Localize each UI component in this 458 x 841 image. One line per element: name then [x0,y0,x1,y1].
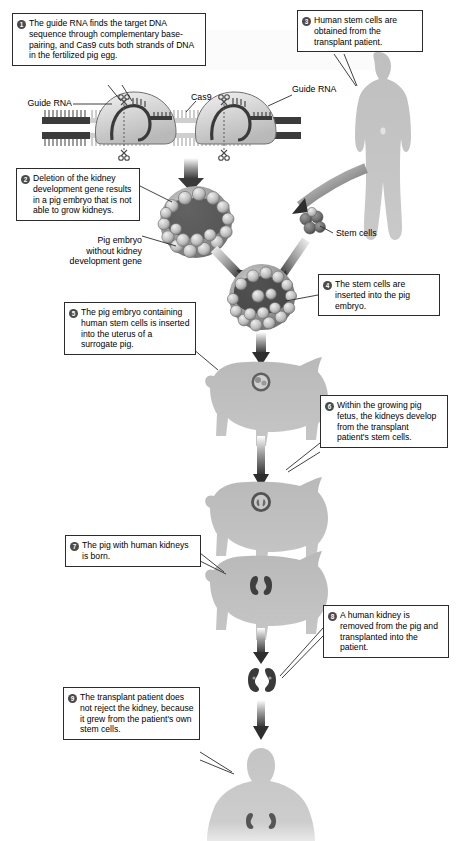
label-cas9: Cas9 [191,92,212,103]
pig-embryo-edited [158,186,234,258]
callout-step-4[interactable]: 4The stem cells are inserted into the pi… [318,274,440,316]
callout-step-7[interactable]: 7The pig with human kidneys is born. [65,535,201,567]
step-text-4: The stem cells are inserted into the pig… [335,279,410,311]
callout-step-1[interactable]: 1The guide RNA finds the target DNA sequ… [12,13,206,66]
step-text-1: The guide RNA finds the target DNA seque… [29,18,194,60]
pig-embryo-caption-line-2: without kidney [86,246,142,256]
step-badge-7: 7 [70,542,79,551]
label-guide-rna-left: Guide RNA [10,98,72,109]
arrow-pig-to-fetus-pig [253,436,269,488]
cas9-protein-left [95,92,176,144]
callout-step-6[interactable]: 6Within the growing pig fetus, the kidne… [320,395,448,448]
step-badge-5: 5 [69,309,78,318]
callout-step-3[interactable]: 3Human stem cells are obtained from the … [297,10,423,52]
step-text-9: The transplant patient does not reject t… [80,692,194,734]
step-text-5: The pig embryo containing human stem cel… [81,307,189,349]
surrogate-pig [205,357,328,446]
harvested-kidney [248,668,276,692]
callout-step-8[interactable]: 8A human kidney is removed from the pig … [323,605,449,658]
step-badge-3: 3 [302,17,311,26]
newborn-pig [205,551,328,640]
scissors-icon-bottom-right [219,150,230,160]
callout-step-9[interactable]: 9The transplant patient does not reject … [63,687,200,740]
dna-cas9-complex [42,92,301,160]
step-text-3: Human stem cells are obtained from the t… [314,15,397,47]
step-badge-4: 4 [323,281,332,290]
callout-step-2[interactable]: 2Deletion of the kidney development gene… [16,168,140,221]
step-text-8: A human kidney is removed from the pig a… [340,610,438,652]
arrow-patient-to-stem-cells [292,168,366,214]
step-badge-2: 2 [21,175,30,184]
pig-embryo-caption-line-1: Pig embryo [98,235,143,245]
diagram-canvas: 1The guide RNA finds the target DNA sequ… [0,0,458,841]
label-pig-embryo-caption: Pig embryo without kidney development ge… [36,235,142,267]
step-badge-8: 8 [328,612,337,621]
recipient-patient-silhouette [207,748,315,841]
pig-embryo-caption-line-3: development gene [70,256,142,266]
step-text-2: Deletion of the kidney development gene … [33,173,131,215]
label-guide-rna-right: Guide RNA [292,84,337,95]
step-badge-9: 9 [68,694,77,703]
pregnant-pig-fetus [205,477,328,566]
scissors-icon-bottom-left [119,150,130,160]
step-text-6: Within the growing pig fetus, the kidney… [337,400,436,442]
human-patient-silhouette [355,52,411,240]
arrow-chimera-to-pig [252,332,270,366]
step-text-7: The pig with human kidneys is born. [82,540,189,561]
callout-step-5[interactable]: 5The pig embryo containing human stem ce… [64,302,196,355]
arrow-kidney-to-patient [253,700,269,740]
step-badge-6: 6 [325,402,334,411]
label-stem-cells: Stem cells [336,228,377,239]
step-badge-1: 1 [17,20,26,29]
